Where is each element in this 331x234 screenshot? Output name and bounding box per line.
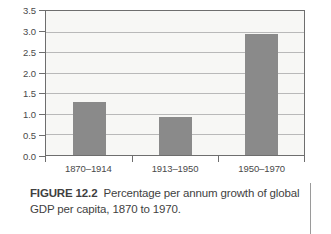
y-axis-tick-label: 1.5 — [23, 88, 36, 99]
x-axis-tick-mark — [218, 156, 219, 162]
x-axis-labels: 1870–19141913–19501950–1970 — [45, 163, 305, 174]
right-margin-rule — [310, 183, 311, 234]
x-axis-tick-mark — [45, 156, 46, 162]
x-axis-tick-mark — [304, 156, 305, 162]
x-axis-tick-label: 1913–1950 — [132, 163, 219, 174]
bar — [73, 102, 106, 155]
bar — [159, 117, 192, 155]
x-axis-tick-label: 1870–1914 — [45, 163, 132, 174]
figure-container: 0.00.51.01.52.02.53.03.5 1870–19141913–1… — [0, 0, 331, 234]
y-axis: 0.00.51.01.52.02.53.03.5 — [0, 10, 45, 156]
y-axis-tick-label: 1.0 — [23, 109, 36, 120]
y-axis-tick-label: 0.5 — [23, 130, 36, 141]
y-axis-tick-label: 3.5 — [23, 5, 36, 16]
bar-slot — [132, 11, 218, 155]
y-axis-tick-label: 2.0 — [23, 67, 36, 78]
y-axis-tick-label: 3.0 — [23, 25, 36, 36]
x-axis-ticks — [45, 156, 305, 162]
bar — [245, 34, 278, 155]
figure-number: FIGURE 12.2 — [30, 187, 97, 199]
bar-slot — [218, 11, 304, 155]
y-axis-tick-label: 0.0 — [23, 151, 36, 162]
bars-group — [46, 11, 304, 155]
figure-caption: FIGURE 12.2 Percentage per annum growth … — [30, 186, 302, 217]
x-axis-tick-mark — [132, 156, 133, 162]
plot-area — [45, 10, 305, 156]
x-axis-tick-label: 1950–1970 — [218, 163, 305, 174]
bar-chart: 0.00.51.01.52.02.53.03.5 1870–19141913–1… — [0, 0, 331, 180]
bar-slot — [46, 11, 132, 155]
y-axis-tick-label: 2.5 — [23, 46, 36, 57]
